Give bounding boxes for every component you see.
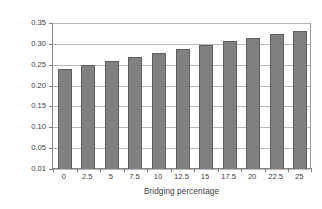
y-axis-tick-label: 0.25 — [22, 61, 46, 69]
bar — [152, 53, 166, 169]
y-axis-tick-labels: 0.350.300.250.200.150.100.050.01 — [22, 0, 46, 209]
x-axis-tick-label: 7.5 — [129, 172, 140, 182]
plot-area — [52, 23, 311, 169]
bar — [223, 41, 237, 169]
x-axis-title: Bridging percentage — [52, 187, 311, 196]
x-axis-tick-label: 15 — [201, 172, 209, 182]
bar — [176, 49, 190, 169]
y-axis-tick-label: 0.20 — [22, 82, 46, 90]
x-axis-tick-label: 25 — [295, 172, 303, 182]
y-axis-tick-label: 0.30 — [22, 40, 46, 48]
bar — [246, 38, 260, 169]
y-axis-tick-label: 0.35 — [22, 19, 46, 27]
bar — [199, 45, 213, 169]
x-axis-tick-label: 17.5 — [221, 172, 236, 182]
x-axis-tick-label: 5 — [109, 172, 113, 182]
bars-group — [53, 23, 310, 168]
x-axis-tick-label: 20 — [248, 172, 256, 182]
x-axis-tick-label: 2.5 — [82, 172, 93, 182]
bar-chart: U-Value (W/m²K) 0.350.300.250.200.150.10… — [0, 0, 322, 209]
gridline — [53, 169, 310, 170]
bar — [270, 34, 284, 169]
x-axis-tick-label: 12.5 — [174, 172, 189, 182]
bar — [105, 61, 119, 169]
bar — [293, 31, 307, 169]
bar — [81, 65, 95, 169]
bar — [128, 57, 142, 169]
y-axis-tick-label: 0.10 — [22, 123, 46, 131]
y-axis-tick-label: 0.05 — [22, 144, 46, 152]
x-axis-tick-label: 0 — [62, 172, 66, 182]
x-axis-tick-mark — [311, 168, 312, 172]
x-axis-tick-label: 10 — [154, 172, 162, 182]
y-axis-tick-label: 0.15 — [22, 102, 46, 110]
x-axis-tick-labels: 02.557.51012.51517.52022.525 — [52, 172, 311, 184]
bar — [58, 69, 72, 169]
y-axis-tick-label: 0.01 — [22, 165, 46, 173]
x-axis-tick-label: 22.5 — [268, 172, 283, 182]
